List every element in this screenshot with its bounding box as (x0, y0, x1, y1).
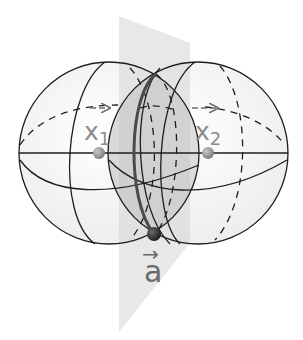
two-spheres-diagram (0, 0, 303, 340)
label-x2: x2 (195, 119, 221, 148)
label-x2-sub: 2 (210, 128, 221, 149)
point-a (147, 227, 161, 241)
label-x1: x1 (84, 119, 110, 148)
label-x1-sub: 1 (99, 128, 110, 149)
label-x1-base: x (84, 117, 99, 146)
label-x2-base: x (195, 117, 210, 146)
label-a: a (144, 257, 162, 287)
